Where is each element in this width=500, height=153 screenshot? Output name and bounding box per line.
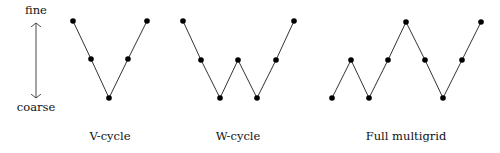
grid-level-node (125, 56, 131, 62)
grid-level-node (273, 57, 279, 63)
v-cycle-path (73, 21, 147, 98)
grid-level-node (106, 95, 112, 101)
full-multigrid-nodes (329, 19, 484, 101)
v-cycle-diagram: V-cycle (70, 18, 150, 143)
diagram-svg: fine coarse V-cycle W-cycle Full multigr… (0, 0, 500, 153)
grid-level-node (198, 57, 204, 63)
coarse-label: coarse (17, 100, 56, 114)
grid-level-node (180, 18, 186, 24)
grid-level-node (366, 95, 372, 101)
grid-level-node (348, 57, 354, 63)
grid-level-node (478, 19, 484, 25)
grid-level-node (88, 56, 94, 62)
grid-level-node (403, 19, 409, 25)
grid-level-node (144, 18, 150, 24)
w-cycle-label: W-cycle (216, 129, 261, 143)
full-multigrid-label: Full multigrid (366, 129, 447, 143)
grid-level-node (385, 57, 391, 63)
w-cycle-diagram: W-cycle (180, 18, 297, 143)
grid-level-node (291, 18, 297, 24)
grid-level-node (329, 95, 335, 101)
grid-level-node (440, 95, 446, 101)
grid-level-node (235, 57, 241, 63)
level-axis: fine coarse (17, 3, 56, 114)
grid-level-node (254, 95, 260, 101)
grid-level-node (217, 95, 223, 101)
w-cycle-nodes (180, 18, 297, 101)
full-multigrid-diagram: Full multigrid (329, 19, 484, 143)
grid-level-node (70, 18, 76, 24)
full-multigrid-path (332, 22, 481, 98)
multigrid-cycles-diagram: fine coarse V-cycle W-cycle Full multigr… (0, 0, 500, 153)
grid-level-node (422, 57, 428, 63)
v-cycle-nodes (70, 18, 150, 101)
grid-level-node (459, 57, 465, 63)
v-cycle-label: V-cycle (89, 129, 131, 143)
fine-label: fine (25, 3, 47, 17)
